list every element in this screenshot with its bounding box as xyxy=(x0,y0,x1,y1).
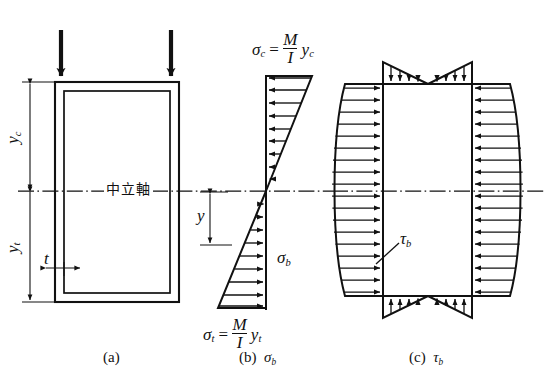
right-web-shear-envelope xyxy=(472,84,521,296)
dim-label-thickness: t xyxy=(44,250,49,267)
shear-section-outline xyxy=(383,70,472,310)
tau-b-label: τb xyxy=(400,230,411,249)
sigma-c-formula: σc = MI yc xyxy=(252,31,314,67)
panel-b-bending-stress xyxy=(200,76,312,310)
sigma-b-label: σb xyxy=(277,249,291,268)
bottom-flange-shear-left xyxy=(383,296,428,318)
top-flange-shear-right xyxy=(428,62,472,84)
neutral-axis-label: 中立軸 xyxy=(104,182,153,196)
left-web-shear-envelope xyxy=(335,84,384,296)
tau-b-leader-line xyxy=(376,243,399,264)
caption-c: (c) τb xyxy=(409,350,443,367)
top-flange-shear-arrows xyxy=(391,66,464,82)
sigma-t-formula: σt = MI yt xyxy=(203,316,261,352)
top-flange-shear-left xyxy=(383,62,428,84)
bottom-flange-shear-right xyxy=(428,296,472,318)
caption-a: (a) xyxy=(103,350,120,365)
panel-c-shear-stress xyxy=(332,62,523,318)
dim-label-yt: yt xyxy=(4,243,23,253)
caption-b: (b) σb xyxy=(239,350,276,367)
bottom-flange-shear-arrows xyxy=(391,299,464,315)
tension-stress-wedge xyxy=(218,191,266,308)
compression-stress-wedge xyxy=(266,76,312,191)
dim-label-yc: yc xyxy=(4,132,23,144)
dim-label-y: y xyxy=(197,207,205,224)
